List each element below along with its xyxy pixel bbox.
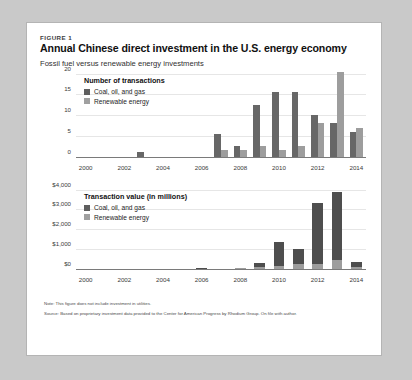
note-text: Note: This figure does not include inves… <box>44 301 368 308</box>
x-axis-line <box>76 157 366 158</box>
legend-item-coal-value: Coal, oil, and gas <box>84 204 187 211</box>
bar-coal-oil-gas <box>214 134 221 157</box>
bar-coal-oil-gas <box>253 105 260 157</box>
x-axis-tick-label: 2010 <box>272 164 286 171</box>
bar-coal-oil-gas <box>234 146 241 156</box>
bar-renewable <box>235 268 246 269</box>
y-axis-tick-label: 0 <box>68 147 76 154</box>
y-axis-tick-label: $4,000 <box>52 180 76 187</box>
legend-swatch-coal-icon <box>84 89 90 95</box>
bar-renewable <box>298 146 305 156</box>
legend-swatch-coal-icon <box>84 205 90 211</box>
figure-notes: Note: This figure does not include inves… <box>40 301 368 318</box>
bar-coal-oil-gas <box>351 262 362 266</box>
bar-renewable <box>279 150 286 156</box>
x-axis-line <box>76 269 366 270</box>
x-axis-tick-label: 2012 <box>311 276 325 283</box>
bar-renewable <box>293 264 304 269</box>
bar-renewable <box>260 146 267 156</box>
bar-coal-oil-gas <box>254 263 265 268</box>
chart-title-transactions: Number of transactions <box>84 76 165 85</box>
x-axis-tick-label: 2002 <box>117 164 131 171</box>
gridline <box>76 190 366 191</box>
x-axis-tick-label: 2008 <box>233 276 247 283</box>
legend-item-renewable: Renewable energy <box>84 98 165 105</box>
bar-coal-oil-gas <box>196 268 207 269</box>
legend-label-coal: Coal, oil, and gas <box>94 88 145 95</box>
x-axis-tick-label: 2014 <box>349 164 363 171</box>
bar-coal-oil-gas <box>312 203 323 263</box>
bar-renewable <box>356 128 363 157</box>
legend-swatch-renewable-icon <box>84 98 90 104</box>
y-axis-tick-label: $3,000 <box>52 200 76 207</box>
gridline <box>76 74 366 75</box>
figure-card: FIGURE 1 Annual Chinese direct investmen… <box>26 22 382 356</box>
legend-swatch-renewable-icon <box>84 214 90 220</box>
x-axis-tick-label: 2010 <box>272 276 286 283</box>
bar-coal-oil-gas <box>332 192 343 260</box>
x-axis-tick-label: 2008 <box>233 164 247 171</box>
bar-renewable <box>254 267 265 268</box>
y-axis-tick-label: $2,000 <box>52 220 76 227</box>
bar-coal-oil-gas <box>311 115 318 157</box>
x-axis-tick-label: 2002 <box>117 276 131 283</box>
figure-label: FIGURE 1 <box>40 34 368 41</box>
legend-transactions: Number of transactions Coal, oil, and ga… <box>84 76 165 108</box>
x-axis-tick-label: 2006 <box>195 164 209 171</box>
chart-transaction-value: Transaction value (in millions) Coal, oi… <box>40 191 368 287</box>
y-axis-tick-label: $0 <box>64 259 76 266</box>
x-axis-tick-label: 2012 <box>311 164 325 171</box>
y-axis-tick-label: 5 <box>68 126 76 133</box>
bar-renewable <box>240 150 247 156</box>
y-axis-tick-label: 10 <box>64 106 76 113</box>
x-axis-tick-label: 2004 <box>156 164 170 171</box>
legend-item-renewable-value: Renewable energy <box>84 214 187 221</box>
legend-label-coal-value: Coal, oil, and gas <box>94 204 145 211</box>
legend-label-renewable: Renewable energy <box>94 98 149 105</box>
bar-renewable <box>221 150 228 156</box>
source-text: Source: Based on proprietary investment … <box>44 311 368 318</box>
gridline <box>76 115 366 116</box>
bar-renewable <box>318 123 325 156</box>
legend-value: Transaction value (in millions) Coal, oi… <box>84 192 187 224</box>
x-axis-tick-label: 2000 <box>79 276 93 283</box>
legend-item-coal: Coal, oil, and gas <box>84 88 165 95</box>
bar-coal-oil-gas <box>292 92 299 156</box>
bar-coal-oil-gas <box>350 132 357 157</box>
figure-title: Annual Chinese direct investment in the … <box>40 43 368 55</box>
y-axis-tick-label: 20 <box>64 64 76 71</box>
bar-renewable <box>312 264 323 269</box>
bar-coal-oil-gas <box>137 152 144 156</box>
x-axis-tick-label: 2004 <box>156 276 170 283</box>
figure-subtitle: Fossil fuel versus renewable energy inve… <box>40 60 368 69</box>
legend-label-renewable-value: Renewable energy <box>94 214 149 221</box>
bar-coal-oil-gas <box>330 123 337 156</box>
chart-title-value: Transaction value (in millions) <box>84 192 187 201</box>
x-axis-tick-label: 2000 <box>79 164 93 171</box>
bar-renewable <box>337 72 344 157</box>
bar-coal-oil-gas <box>272 92 279 156</box>
x-axis-tick-label: 2006 <box>195 276 209 283</box>
chart-number-of-transactions: Number of transactions Coal, oil, and ga… <box>40 75 368 175</box>
y-axis-tick-label: $1,000 <box>52 239 76 246</box>
bar-renewable <box>332 260 343 268</box>
bar-coal-oil-gas <box>293 249 304 264</box>
bar-renewable <box>351 267 362 269</box>
bar-coal-oil-gas <box>274 242 285 266</box>
bar-renewable <box>274 266 285 268</box>
y-axis-tick-label: 15 <box>64 85 76 92</box>
x-axis-tick-label: 2014 <box>349 276 363 283</box>
